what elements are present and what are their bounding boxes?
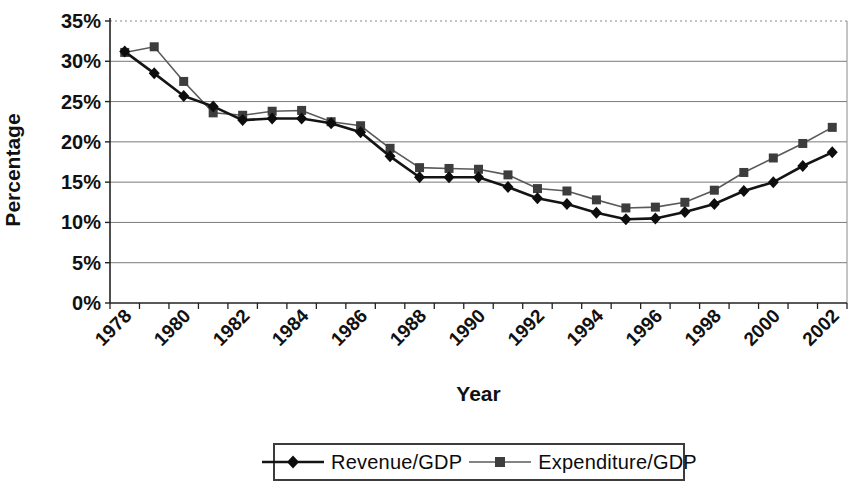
marker-square-1998 <box>710 186 719 195</box>
marker-diamond-2000 <box>768 176 779 188</box>
marker-square-1999 <box>739 168 748 177</box>
marker-diamond-1997 <box>679 206 690 218</box>
legend-item-revenue: Revenue/GDP <box>261 451 462 474</box>
x-tick-label: 1996 <box>621 305 666 350</box>
marker-diamond-2002 <box>827 146 838 158</box>
x-tick-label: 1992 <box>504 305 549 350</box>
legend: Revenue/GDP Expenditure/GDP <box>273 443 685 481</box>
marker-square-2001 <box>798 139 807 148</box>
y-tick-label: 20% <box>61 131 101 153</box>
marker-diamond-2001 <box>797 160 808 172</box>
marker-diamond-1995 <box>620 213 631 225</box>
y-tick-label: 30% <box>61 50 101 72</box>
x-tick-label: 2002 <box>798 305 843 350</box>
marker-diamond-1998 <box>709 198 720 210</box>
marker-square-2002 <box>828 123 837 132</box>
marker-square-1997 <box>680 198 689 207</box>
y-tick-label: 25% <box>61 91 101 113</box>
marker-square-1996 <box>651 203 660 212</box>
series-line-revenue <box>125 52 833 220</box>
legend-label-expenditure: Expenditure/GDP <box>538 451 697 474</box>
marker-square-1994 <box>592 195 601 204</box>
marker-diamond-1991 <box>502 181 513 193</box>
x-tick-label: 2000 <box>739 305 784 350</box>
y-tick-label: 15% <box>61 171 101 193</box>
marker-square-1992 <box>533 184 542 193</box>
x-tick-label: 1982 <box>209 305 254 350</box>
marker-square-1979 <box>150 42 159 51</box>
x-tick-label: 1998 <box>680 305 725 350</box>
y-tick-label: 5% <box>72 252 101 274</box>
legend-label-revenue: Revenue/GDP <box>331 451 462 474</box>
y-tick-label: 35% <box>61 10 101 32</box>
marker-square-1991 <box>503 170 512 179</box>
marker-diamond-1993 <box>561 198 572 210</box>
series-line-expenditure <box>125 47 833 208</box>
marker-square-1980 <box>179 77 188 86</box>
marker-diamond-1999 <box>738 185 749 197</box>
expenditure-line-marker-icon <box>468 455 532 469</box>
chart-figure: Percentage 0%5%10%15%20%25%30%35%1978198… <box>0 0 860 495</box>
y-tick-label: 0% <box>72 292 101 314</box>
marker-square-1988 <box>415 163 424 172</box>
x-tick-label: 1990 <box>445 305 490 350</box>
x-tick-label: 1980 <box>150 305 195 350</box>
marker-diamond-1989 <box>444 171 455 183</box>
x-tick-label: 1994 <box>563 305 608 350</box>
marker-square-1993 <box>562 187 571 196</box>
x-tick-label: 1988 <box>386 305 431 350</box>
x-tick-label: 1984 <box>268 305 313 350</box>
revenue-line-marker-icon <box>261 455 325 469</box>
legend-item-expenditure: Expenditure/GDP <box>468 451 697 474</box>
marker-diamond-1992 <box>532 192 543 204</box>
marker-diamond-1994 <box>591 207 602 219</box>
line-chart-plot: 0%5%10%15%20%25%30%35%197819801982198419… <box>0 0 860 495</box>
x-tick-label: 1986 <box>327 305 372 350</box>
y-axis-title: Percentage <box>1 95 25 245</box>
marker-square-2000 <box>769 153 778 162</box>
y-tick-label: 10% <box>61 211 101 233</box>
x-axis-title: Year <box>110 382 847 406</box>
marker-square-1995 <box>621 203 630 212</box>
